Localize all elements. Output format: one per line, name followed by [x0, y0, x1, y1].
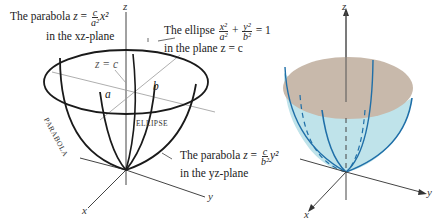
label-z-eq-c: z = c [95, 58, 118, 71]
label-ellipse-inside: ELLIPSE [136, 119, 168, 128]
label-ellipse: The ellipse x²a² + y²b² = 1 [164, 22, 271, 41]
label-a: a [105, 88, 111, 101]
y-axis-label-right: y [427, 186, 432, 198]
x-axis-right [310, 172, 346, 210]
x-axis-label-left: x [82, 204, 87, 216]
x-axis-left [88, 170, 126, 208]
label-plane-z-c: in the plane z = c [164, 42, 243, 55]
x-axis-label-right: x [304, 208, 309, 220]
label-parabola-xz: The parabola z = ca²x² [10, 8, 109, 27]
y-axis-right [346, 172, 424, 193]
label-parabola-yz: The parabola z = cb²y² [180, 147, 279, 166]
top-face [283, 57, 413, 119]
y-axis-label-left: y [208, 190, 213, 202]
label-b: b [153, 80, 159, 93]
z-axis-label-left: z [123, 0, 127, 12]
z-axis-label-right: z [342, 0, 346, 12]
right-paraboloid-surface [283, 8, 427, 212]
label-yz-plane: in the yz-plane [180, 167, 248, 180]
label-xz-plane: in the xz-plane [46, 30, 114, 43]
